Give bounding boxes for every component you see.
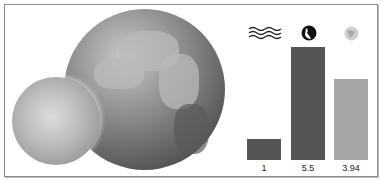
bar-value-label: 1 xyxy=(247,163,281,173)
bar-moon xyxy=(334,79,368,160)
moon-icon xyxy=(344,26,359,41)
earth-globe-icon xyxy=(301,25,317,41)
bar-value-label: 3.94 xyxy=(334,163,368,173)
bar-value-label: 5.5 xyxy=(291,163,325,173)
bar-water xyxy=(247,139,281,160)
bar-earth xyxy=(291,47,325,160)
moon-image xyxy=(12,77,100,165)
water-waves-icon xyxy=(248,26,282,40)
